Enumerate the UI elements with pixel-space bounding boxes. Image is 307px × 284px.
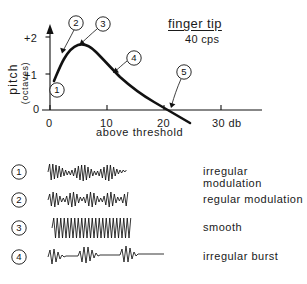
legend-markers: 1 2 3 4 [0, 0, 307, 284]
legend-circle-1: 1 [12, 165, 26, 179]
legend-label-4: irregular burst [203, 250, 278, 262]
svg-text:4: 4 [16, 251, 21, 262]
svg-text:3: 3 [16, 222, 21, 233]
legend-label-1: irregular modulation [203, 165, 307, 189]
legend-circle-3: 3 [12, 221, 26, 235]
svg-text:1: 1 [16, 166, 21, 177]
legend-circle-4: 4 [12, 250, 26, 264]
legend-label-2: regular modulation [203, 193, 303, 205]
legend-label-3: smooth [203, 221, 242, 233]
legend-circle-2: 2 [12, 193, 26, 207]
figure-finger-tip: finger tip 40 cps pitch (octaves) above … [0, 0, 307, 284]
svg-text:2: 2 [16, 194, 21, 205]
